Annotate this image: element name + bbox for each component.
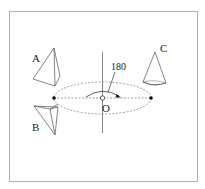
left-endpoint-dot xyxy=(52,96,56,100)
rotation-diagram: A B C O 180 xyxy=(0,0,205,189)
cone-c xyxy=(143,52,166,85)
origin-point xyxy=(100,96,104,100)
label-b: B xyxy=(32,121,39,133)
label-origin: O xyxy=(102,102,110,114)
label-a: A xyxy=(32,52,40,64)
label-angle: 180 xyxy=(111,61,126,72)
label-c: C xyxy=(160,42,167,54)
right-endpoint-dot xyxy=(149,96,153,100)
